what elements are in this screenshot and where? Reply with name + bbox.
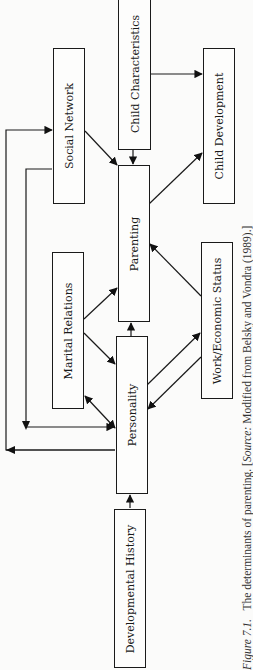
box-parenting: Parenting bbox=[118, 165, 150, 322]
box-marital-relations: Marital Relations bbox=[52, 252, 84, 409]
label-child-characteristics: Child Characteristics bbox=[128, 15, 141, 133]
arrow-parenting-to-childdev bbox=[149, 153, 202, 204]
figure-caption: Figure 7.1. The determinants of parentin… bbox=[241, 226, 253, 670]
box-child-development: Child Development bbox=[203, 48, 235, 204]
label-social-network: Social Network bbox=[63, 83, 76, 169]
arrowhead-down-icon bbox=[22, 421, 30, 430]
label-marital-relations: Marital Relations bbox=[62, 282, 75, 379]
label-parenting: Parenting bbox=[128, 216, 141, 270]
arrowhead-left-icon bbox=[6, 446, 15, 454]
label-child-development: Child Development bbox=[213, 73, 226, 180]
box-child-characteristics: Child Characteristics bbox=[118, 0, 151, 150]
label-work-economic-status: Work/Economic Status bbox=[211, 257, 224, 384]
box-work-economic-status: Work/Economic Status bbox=[201, 242, 233, 399]
arrow-marital-to-personality bbox=[84, 333, 115, 364]
arrow-marital-to-parenting bbox=[84, 288, 117, 319]
caption-source-open: [ bbox=[241, 462, 253, 466]
box-personality: Personality bbox=[116, 336, 148, 494]
caption-text: The determinants of parenting. bbox=[241, 469, 253, 611]
box-developmental-history: Developmental History bbox=[114, 509, 146, 668]
determinants-of-parenting-diagram: Child Characteristics Social Network Chi… bbox=[0, 0, 253, 670]
label-personality: Personality bbox=[126, 384, 139, 446]
caption-source-label: Source: bbox=[241, 427, 253, 462]
caption-source-text: Modified from Belsky and Vondra (1989).] bbox=[241, 226, 253, 424]
box-social-network: Social Network bbox=[53, 48, 85, 204]
arrow-work-to-parenting bbox=[150, 244, 201, 296]
arrow-personality-to-work bbox=[147, 333, 200, 385]
arrow-socialnetwork-to-parenting bbox=[85, 131, 117, 165]
figure-label: Figure 7.1. bbox=[241, 619, 253, 670]
arrow-work-to-personality bbox=[148, 357, 201, 409]
arrow-personality-marital-bidirectional bbox=[85, 396, 115, 428]
label-developmental-history: Developmental History bbox=[124, 524, 137, 653]
